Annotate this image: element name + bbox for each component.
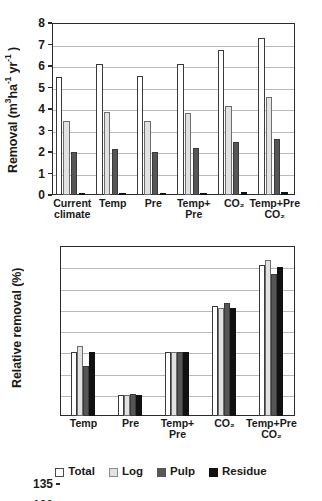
bar-log xyxy=(185,113,191,195)
y-tick-label: 6 xyxy=(0,60,45,72)
bar-group xyxy=(107,246,154,416)
y-tick-label: 7 xyxy=(0,39,45,51)
x-tick-label: Temp+PreCO₂ xyxy=(234,418,309,440)
legend-item-pulp: Pulp xyxy=(157,466,195,478)
x-tick-label: Temp+PreCO₂ xyxy=(242,198,307,220)
bar-group xyxy=(214,23,255,195)
y-tick-mark xyxy=(48,151,52,152)
panel-removal: Removal (m3ha-1 yr-1 ) 012345678 Current… xyxy=(0,0,322,236)
bar-pulp xyxy=(112,149,118,195)
bar-residue xyxy=(183,352,189,416)
y-tick-mark xyxy=(48,194,52,195)
bar-log xyxy=(144,121,150,195)
bar-residue xyxy=(281,192,287,195)
legend-item-residue: Residue xyxy=(209,466,267,478)
y-tick-label: 5 xyxy=(0,82,45,94)
bar-log xyxy=(225,106,231,195)
y-tick-mark xyxy=(48,87,52,88)
bar-group xyxy=(93,23,134,195)
bar-residue xyxy=(277,267,283,416)
bar-residue xyxy=(119,193,125,195)
y-tick-label: 2 xyxy=(0,146,45,158)
legend-label: Pulp xyxy=(170,466,195,478)
plot-area-removal xyxy=(52,23,295,195)
y-tick-mark xyxy=(48,108,52,109)
legend-label: Total xyxy=(68,466,95,478)
bar-total xyxy=(177,64,183,195)
y-tick-mark xyxy=(48,173,52,174)
legend-label: Log xyxy=(122,466,143,478)
bar-residue xyxy=(136,395,142,416)
x-axis-labels-removal: CurrentclimateTempPreTemp+PreCO₂Temp+Pre… xyxy=(52,198,295,232)
y-tick-label: 1 xyxy=(0,168,45,180)
bar-total xyxy=(96,64,102,195)
plot-area-relative-removal xyxy=(60,246,295,416)
bar-group xyxy=(52,23,93,195)
bar-log xyxy=(63,121,69,195)
legend-swatch-log-icon xyxy=(109,468,118,477)
legend-label: Residue xyxy=(222,466,267,478)
bar-residue xyxy=(160,193,166,195)
legend-swatch-residue-icon xyxy=(209,468,218,477)
bar-group xyxy=(248,246,295,416)
bar-pulp xyxy=(152,152,158,195)
panel-relative-removal: Relative removal (%) 9510010511011512012… xyxy=(0,238,322,453)
bar-residue xyxy=(230,308,236,416)
bar-total xyxy=(218,50,224,195)
bar-group xyxy=(255,23,296,195)
bars-relative-removal xyxy=(60,246,295,416)
bar-group xyxy=(154,246,201,416)
y-tick-mark xyxy=(48,22,52,23)
legend-swatch-total-icon xyxy=(55,468,64,477)
bar-total xyxy=(137,76,143,195)
bar-total xyxy=(258,38,264,195)
bar-residue xyxy=(89,352,95,416)
bar-pulp xyxy=(71,152,77,195)
bar-pulp xyxy=(233,142,239,195)
bar-group xyxy=(201,246,248,416)
bar-group xyxy=(174,23,215,195)
bar-log xyxy=(104,112,110,195)
bar-total xyxy=(56,77,62,195)
legend-item-log: Log xyxy=(109,466,143,478)
y-axis-label-relative-removal: Relative removal (%) xyxy=(10,250,28,405)
bar-residue xyxy=(200,193,206,195)
bar-pulp xyxy=(274,139,280,195)
bars-removal xyxy=(52,23,295,195)
y-tick-mark xyxy=(48,130,52,131)
bar-log xyxy=(266,97,272,195)
figure-two-panel-bar-charts: Removal (m3ha-1 yr-1 ) 012345678 Current… xyxy=(0,0,322,501)
y-tick-label: 8 xyxy=(0,17,45,29)
bar-group xyxy=(60,246,107,416)
x-axis-labels-relative-removal: TempPreTemp+PreCO₂Temp+PreCO₂ xyxy=(60,418,295,450)
bar-pulp xyxy=(193,148,199,195)
y-tick-label: 0 xyxy=(0,189,45,201)
y-tick-label: 4 xyxy=(0,103,45,115)
y-tick-mark xyxy=(48,44,52,45)
chart-legend: TotalLogPulpResidue xyxy=(0,462,322,482)
y-tick-mark xyxy=(48,65,52,66)
y-tick-mark xyxy=(56,483,60,484)
legend-swatch-pulp-icon xyxy=(157,468,166,477)
legend-item-total: Total xyxy=(55,466,95,478)
bar-residue xyxy=(79,193,85,195)
bar-group xyxy=(133,23,174,195)
bar-residue xyxy=(241,192,247,195)
y-tick-label: 3 xyxy=(0,125,45,137)
